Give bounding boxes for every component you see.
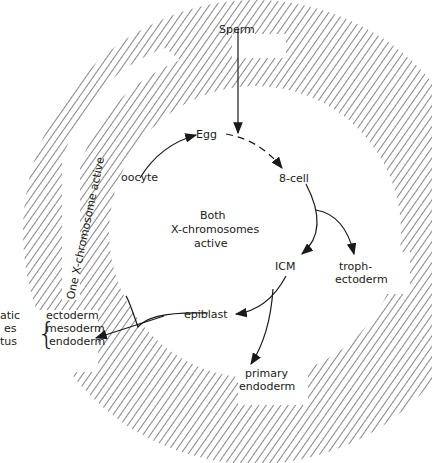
center-label-1: Both xyxy=(200,209,226,222)
primary-endoderm-label-1: primary xyxy=(245,367,289,380)
epiblast-label: epiblast xyxy=(184,308,228,321)
truncated-left-label-1: atic xyxy=(0,309,20,322)
primary-endoderm-label-2: endoderm xyxy=(239,380,295,393)
egg-label: Egg xyxy=(196,128,217,141)
sperm-label: Sperm xyxy=(219,23,255,36)
truncated-left-label-2: es xyxy=(4,322,17,335)
germ-layer-endoderm: endoderm xyxy=(49,335,105,348)
center-label-2: X-chromosomes xyxy=(171,223,259,236)
x-inactivation-cycle-diagram: Sperm Egg oocyte 8-cell ICM epiblast tro… xyxy=(0,0,432,463)
center-label-3: active xyxy=(194,237,228,250)
germ-layers-brace: { xyxy=(37,316,56,351)
icm-label: ICM xyxy=(275,260,295,273)
8cell-label: 8-cell xyxy=(279,172,309,185)
trophectoderm-label-1: troph- xyxy=(339,260,372,273)
truncated-left-label-3: tus xyxy=(0,335,17,348)
trophectoderm-label-2: ectoderm xyxy=(335,273,388,286)
oocyte-label: oocyte xyxy=(121,171,158,184)
